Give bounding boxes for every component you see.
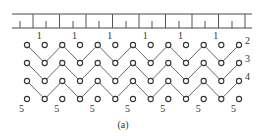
node-circle-icon	[42, 96, 47, 101]
node-circle-icon	[130, 78, 135, 83]
top-label: 1	[37, 30, 42, 41]
node-circle-icon	[201, 78, 206, 83]
bottom-label: 5	[90, 103, 95, 114]
node-circle-icon	[183, 96, 188, 101]
node-circle-icon	[77, 78, 82, 83]
line-label-3: 3	[245, 53, 250, 64]
node-circle-icon	[95, 60, 100, 65]
node-circle-icon	[166, 96, 171, 101]
node-circle-icon	[183, 42, 188, 47]
zigzag-lines	[27, 45, 239, 99]
top-label: 1	[107, 30, 112, 41]
node-circle-icon	[236, 42, 241, 47]
node-circle-icon	[201, 42, 206, 47]
node-circle-icon	[130, 60, 135, 65]
node-circle-icon	[60, 42, 65, 47]
node-circle-icon	[24, 78, 29, 83]
node-circle-icon	[219, 42, 224, 47]
ruler	[12, 14, 252, 28]
node-circle-icon	[113, 96, 118, 101]
node-circle-icon	[148, 60, 153, 65]
node-circle-icon	[77, 60, 82, 65]
node-circle-icon	[24, 96, 29, 101]
node-circle-icon	[113, 78, 118, 83]
node-circle-icon	[113, 42, 118, 47]
node-circle-icon	[95, 78, 100, 83]
bottom-label: 5	[54, 103, 59, 114]
node-circle-icon	[60, 96, 65, 101]
node-circle-icon	[42, 60, 47, 65]
node-circle-icon	[148, 42, 153, 47]
node-circle-icon	[219, 60, 224, 65]
node-circle-icon	[60, 78, 65, 83]
node-circle-icon	[183, 78, 188, 83]
node-circle-icon	[148, 96, 153, 101]
node-circle-icon	[236, 60, 241, 65]
node-circle-icon	[166, 42, 171, 47]
node-circle-icon	[148, 78, 153, 83]
node-circle-icon	[183, 60, 188, 65]
node-circle-icon	[236, 78, 241, 83]
node-circle-icon	[77, 96, 82, 101]
bottom-label: 5	[196, 103, 201, 114]
line-label-4: 4	[245, 71, 250, 82]
node-circle-icon	[219, 78, 224, 83]
node-circle-icon	[95, 96, 100, 101]
node-circle-icon	[130, 42, 135, 47]
bottom-label: 5	[231, 103, 236, 114]
bottom-label: 5	[125, 103, 130, 114]
node-circle-icon	[236, 96, 241, 101]
line-label-2: 2	[245, 35, 250, 46]
node-circle-icon	[166, 60, 171, 65]
node-circle-icon	[201, 96, 206, 101]
top-label: 1	[178, 30, 183, 41]
top-label: 1	[213, 30, 218, 41]
node-circle-icon	[42, 42, 47, 47]
node-circle-icon	[201, 60, 206, 65]
node-circle-icon	[166, 78, 171, 83]
node-grid	[24, 42, 241, 101]
node-circle-icon	[95, 42, 100, 47]
bottom-label: 5	[19, 103, 24, 114]
top-label: 1	[72, 30, 77, 41]
node-circle-icon	[113, 60, 118, 65]
node-circle-icon	[219, 96, 224, 101]
node-circle-icon	[130, 96, 135, 101]
node-circle-icon	[24, 60, 29, 65]
figure-caption: (a)	[117, 119, 128, 131]
node-circle-icon	[60, 60, 65, 65]
node-circle-icon	[77, 42, 82, 47]
bottom-label: 5	[160, 103, 165, 114]
zigzag-diagram: 1111115555555234 (a)	[0, 0, 261, 140]
top-label: 1	[143, 30, 148, 41]
node-circle-icon	[42, 78, 47, 83]
node-circle-icon	[24, 42, 29, 47]
